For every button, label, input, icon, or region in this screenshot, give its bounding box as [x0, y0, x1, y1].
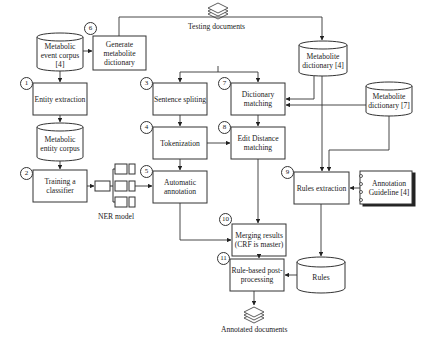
generate-dictionary-label: Generate metabolite dictionary	[93, 36, 146, 70]
step-10-badge: 10	[219, 213, 232, 226]
pipeline-diagram: Metabolic event corpus [4] Generate meta…	[0, 0, 429, 350]
step-11-badge: 11	[217, 252, 230, 265]
annotated-documents-caption: Annotated documents	[221, 325, 287, 334]
merging-results-label: Merging results (CRF is master)	[232, 224, 286, 256]
annotated-documents-icon	[244, 307, 264, 323]
step-6-badge: 6	[84, 22, 97, 35]
step-2-badge: 2	[20, 167, 33, 180]
automatic-annotation-label: Automatic annotation	[153, 171, 207, 203]
metabolite-dictionary-4-label: Metabolite dictionary [4]	[299, 49, 347, 73]
step-5-badge: 5	[140, 165, 153, 178]
ner-model-network-icon	[95, 164, 135, 207]
step-9-badge: 9	[281, 166, 294, 179]
sentence-splitting-label: Sentence spliting	[153, 83, 207, 115]
rules-label: Rules	[297, 266, 345, 288]
testing-documents-caption: Testing documents	[188, 22, 245, 31]
metabolic-entity-corpus-label: Metabolic entity corpus	[37, 131, 83, 157]
step-8-badge: 8	[218, 121, 231, 134]
step-4-badge: 4	[140, 121, 153, 134]
step-1-badge: 1	[20, 77, 33, 90]
ner-model-caption: NER model	[98, 212, 134, 221]
metabolic-event-corpus-label: Metabolic event corpus [4]	[37, 41, 83, 69]
entity-extraction-label: Entity extraction	[33, 83, 87, 115]
postprocessing-label: Rule-based post-processing	[230, 259, 284, 291]
step-7-badge: 7	[218, 77, 231, 90]
rules-extraction-label: Rules extraction	[294, 172, 349, 204]
training-classifier-label: Training a classifier	[33, 170, 87, 202]
dictionary-matching-label: Dictionary matching	[231, 83, 285, 115]
edit-distance-label: Edit Distance matching	[231, 127, 285, 159]
annotation-guideline-label: Annotation Guideline [4]	[366, 171, 412, 204]
metabolite-dictionary-7-label: Metabolite dictionary [7]	[366, 90, 412, 112]
step-3-badge: 3	[140, 77, 153, 90]
tokenization-label: Tokenization	[153, 127, 207, 159]
